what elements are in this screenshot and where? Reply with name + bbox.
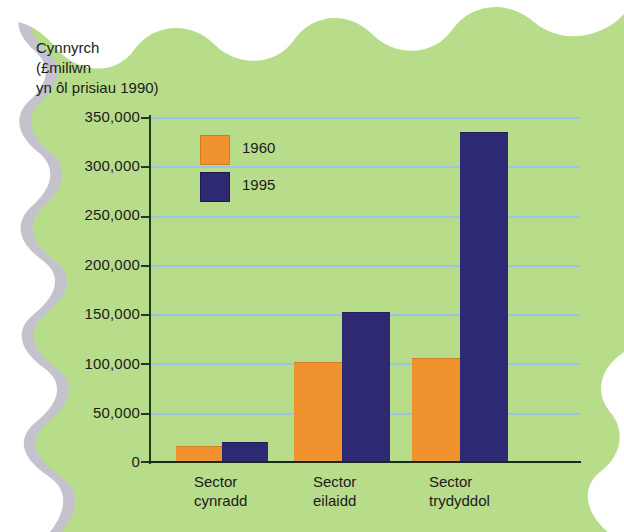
x-category-trydyddol: Sector trydyddol [429, 472, 490, 510]
x-category-cynradd-line1: Sector [194, 472, 247, 491]
legend-label-1960: 1960 [242, 139, 275, 156]
figure-canvas: Cynnyrch (£miliwn yn ôl prisiau 1990) 35… [0, 0, 624, 532]
x-category-cynradd: Sector cynradd [194, 472, 247, 510]
bar-trydyddol-1995[interactable] [460, 132, 508, 462]
y-axis-labels: 350,000 300,000 250,000 200,000 150,000 … [22, 0, 140, 532]
x-category-eilaidd: Sector eilaidd [313, 472, 356, 510]
y-tick-label-0: 0 [30, 453, 140, 470]
y-tick-label-250000: 250,000 [30, 206, 140, 223]
bar-eilaidd-1995[interactable] [342, 312, 390, 462]
y-tick-label-50000: 50,000 [30, 404, 140, 421]
y-tick-label-150000: 150,000 [30, 305, 140, 322]
bar-cynradd-1995[interactable] [222, 442, 268, 462]
bar-cynradd-1960[interactable] [176, 446, 222, 462]
bar-group-container [151, 117, 580, 462]
y-tick-label-200000: 200,000 [30, 256, 140, 273]
bar-eilaidd-1960[interactable] [294, 362, 342, 462]
y-tick-label-100000: 100,000 [30, 355, 140, 372]
x-category-trydyddol-line1: Sector [429, 472, 490, 491]
legend-swatch-1995 [200, 172, 230, 202]
x-axis-line [149, 461, 581, 463]
legend-label-1995: 1995 [242, 176, 275, 193]
y-tick-label-300000: 300,000 [30, 157, 140, 174]
x-category-trydyddol-line2: trydyddol [429, 491, 490, 510]
y-tick-label-350000: 350,000 [30, 108, 140, 125]
x-category-eilaidd-line1: Sector [313, 472, 356, 491]
x-category-cynradd-line2: cynradd [194, 491, 247, 510]
legend-swatch-1960 [200, 135, 230, 165]
y-axis-line [149, 115, 151, 464]
x-category-eilaidd-line2: eilaidd [313, 491, 356, 510]
bar-trydyddol-1960[interactable] [412, 358, 460, 463]
